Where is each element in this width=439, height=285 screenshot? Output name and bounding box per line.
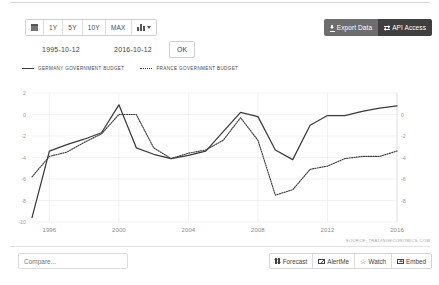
range-10y-button[interactable]: 10Y	[83, 20, 106, 35]
y-axis-tick-left: 0	[10, 112, 26, 118]
x-axis-tick: 2016	[380, 227, 414, 233]
image-frame-icon	[397, 259, 404, 264]
sort-arrows-icon	[275, 258, 280, 264]
forecast-label: Forecast	[283, 258, 308, 265]
y-axis-tick-right: 0	[401, 112, 417, 118]
date-range-row: 1995-10-12 2016-10-12 OK	[25, 41, 195, 58]
y-axis-tick-right: -6	[401, 176, 417, 182]
legend-item-france[interactable]: FRANCE GOVERNMENT BUDGET	[140, 66, 238, 71]
export-data-label: Export Data	[337, 24, 372, 31]
tradingeconomics-chart-widget: 1Y 5Y 10Y MAX 1995-10-12 2016-10-12 OK E…	[0, 0, 439, 285]
chart-toolbar: 1Y 5Y 10Y MAX 1995-10-12 2016-10-12 OK E…	[0, 10, 439, 58]
star-icon: ☆	[360, 258, 366, 265]
y-axis-tick-right: -2	[401, 133, 417, 139]
chart-plot-area[interactable]: 20-2-4-6-8-100-2-4-6-8199620002004200820…	[0, 78, 439, 246]
bottom-button-group: Forecast AlertMe ☆ Watch Embed	[269, 253, 432, 269]
legend-line-solid-icon	[22, 68, 34, 69]
ok-button[interactable]: OK	[169, 41, 195, 58]
download-icon	[330, 25, 335, 31]
legend-label-france: FRANCE GOVERNMENT BUDGET	[156, 66, 238, 71]
range-button-group: 1Y 5Y 10Y MAX	[25, 19, 157, 36]
alertme-button[interactable]: AlertMe	[313, 254, 355, 268]
chart-bottom-bar: Forecast AlertMe ☆ Watch Embed	[0, 250, 439, 280]
exchange-arrows-icon	[384, 25, 390, 31]
line-chart-svg	[0, 78, 439, 246]
api-access-button[interactable]: API Access	[378, 19, 432, 36]
action-button-group: Export Data API Access	[324, 19, 432, 36]
calendar-icon	[31, 24, 38, 31]
alertme-label: AlertMe	[327, 258, 349, 265]
chart-type-dropdown[interactable]	[132, 20, 156, 35]
x-axis-tick: 2012	[310, 227, 344, 233]
y-axis-tick-right: -4	[401, 155, 417, 161]
watch-button[interactable]: ☆ Watch	[355, 254, 392, 268]
date-from-input[interactable]: 1995-10-12	[25, 41, 97, 58]
y-axis-tick-right: -8	[401, 198, 417, 204]
legend-label-germany: GERMANY GOVERNMENT BUDGET	[38, 66, 124, 71]
series-line-france	[32, 115, 397, 196]
embed-label: Embed	[406, 258, 426, 265]
range-5y-button[interactable]: 5Y	[63, 20, 82, 35]
range-max-button[interactable]: MAX	[106, 20, 132, 35]
envelope-icon	[318, 259, 325, 264]
y-axis-tick-left: -2	[10, 133, 26, 139]
y-axis-tick-left: -10	[10, 219, 26, 225]
y-axis-tick-left: -4	[10, 155, 26, 161]
legend-item-germany[interactable]: GERMANY GOVERNMENT BUDGET	[22, 66, 124, 71]
x-axis-tick: 1996	[32, 227, 66, 233]
legend-line-dotted-icon	[140, 68, 152, 69]
x-axis-tick: 2000	[102, 227, 136, 233]
x-axis-tick: 2008	[241, 227, 275, 233]
export-data-button[interactable]: Export Data	[324, 19, 378, 36]
range-1y-button[interactable]: 1Y	[44, 20, 63, 35]
api-access-label: API Access	[392, 24, 426, 31]
bar-chart-icon	[137, 24, 145, 31]
top-divider	[10, 2, 430, 3]
forecast-button[interactable]: Forecast	[270, 254, 313, 268]
source-attribution: SOURCE: TRADINGECONOMICS.COM	[346, 238, 430, 243]
bottom-divider	[10, 246, 430, 247]
date-to-input[interactable]: 2016-10-12	[97, 41, 169, 58]
watch-label: Watch	[368, 258, 386, 265]
chevron-down-icon	[147, 26, 151, 29]
embed-button[interactable]: Embed	[392, 254, 431, 268]
compare-input[interactable]	[18, 253, 128, 269]
y-axis-tick-left: 2	[10, 90, 26, 96]
y-axis-tick-left: -8	[10, 198, 26, 204]
x-axis-tick: 2004	[171, 227, 205, 233]
chart-legend: GERMANY GOVERNMENT BUDGET FRANCE GOVERNM…	[22, 66, 238, 71]
calendar-range-button[interactable]	[26, 20, 44, 35]
y-axis-tick-left: -6	[10, 176, 26, 182]
